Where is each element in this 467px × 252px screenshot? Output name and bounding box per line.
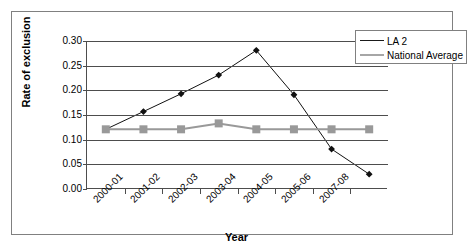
y-tick-label: 0.15 [48,110,82,120]
data-point-marker-square [290,125,298,133]
y-tick-label: 0.25 [48,61,82,71]
legend-item-national-average: National Average [360,48,462,62]
legend-item-la-2: LA 2 [360,34,462,48]
y-axis-title: Rate of exclusion [20,2,32,122]
data-point-marker-square [215,119,223,127]
data-point-marker-diamond [366,171,373,178]
gridline [87,115,388,116]
data-point-marker-diamond [140,108,147,115]
y-tick-mark [83,41,87,42]
y-tick-mark [83,90,87,91]
y-tick-mark [83,115,87,116]
legend-swatch-la-2 [360,35,384,47]
gridline [87,90,388,91]
x-tick-mark [125,189,126,194]
legend-swatch-national-average [360,49,384,61]
y-tick-label: 0.20 [48,85,82,95]
data-point-marker-square [177,125,185,133]
gridline [87,140,388,141]
y-tick-label: 0.30 [48,36,82,46]
y-tick-mark [83,66,87,67]
y-axis-tick-labels: 0.000.050.100.150.200.250.30 [44,41,82,189]
data-point-marker-square [139,125,147,133]
x-tick-mark [350,189,351,194]
x-tick-mark [200,189,201,194]
legend-label-national-average: National Average [387,50,463,61]
data-point-marker-square [328,125,336,133]
y-tick-label: 0.05 [48,159,82,169]
x-tick-mark [313,189,314,194]
chart-legend: LA 2 National Average [355,30,467,64]
plot-area [86,41,387,189]
data-point-marker-square [252,125,260,133]
x-axis-title: Year [86,231,387,243]
y-tick-mark [83,164,87,165]
data-point-marker-square [102,125,110,133]
data-point-marker-square [365,125,373,133]
gridline [87,66,388,67]
data-point-marker-diamond [215,72,222,79]
chart-outer-frame: Rate of exclusion 0.000.050.100.150.200.… [11,11,453,235]
y-tick-label: 0.10 [48,135,82,145]
legend-line-icon [360,40,384,41]
x-tick-mark [275,189,276,194]
legend-label-la-2: LA 2 [387,36,407,47]
gridline [87,164,388,165]
legend-line-icon [360,54,384,56]
gridline [87,41,388,42]
y-tick-label: 0.00 [48,184,82,194]
data-point-marker-diamond [178,90,185,97]
data-point-marker-diamond [328,146,335,153]
y-tick-mark [83,189,87,190]
y-tick-mark [83,140,87,141]
x-tick-mark [238,189,239,194]
x-tick-mark [162,189,163,194]
